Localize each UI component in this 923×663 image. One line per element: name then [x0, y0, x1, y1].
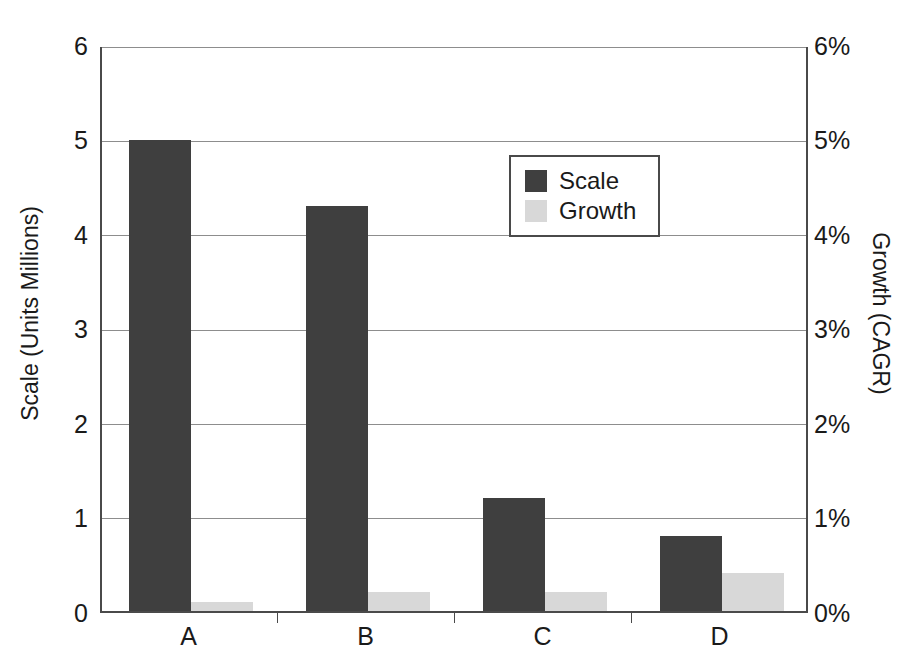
x-axis-label-B: B: [277, 622, 454, 650]
bar-C-scale[interactable]: [483, 498, 545, 611]
y-axis-right-tick-1: 1%: [814, 506, 894, 531]
bar-B-scale[interactable]: [306, 206, 368, 611]
legend-item-growth[interactable]: Growth: [525, 196, 636, 226]
bar-group-A: [102, 47, 279, 611]
bar-D-scale[interactable]: [660, 536, 722, 611]
legend-swatch-growth-icon: [525, 200, 547, 222]
bar-A-growth[interactable]: [191, 602, 253, 611]
x-axis-label-C: C: [454, 622, 631, 650]
bar-A-scale[interactable]: [129, 140, 191, 611]
legend-item-scale[interactable]: Scale: [525, 166, 636, 196]
bar-group-D: [633, 47, 810, 611]
plot-area: [100, 47, 808, 613]
bar-B-growth[interactable]: [368, 592, 430, 611]
y-axis-right-tick-6: 6%: [814, 34, 894, 59]
bar-D-growth[interactable]: [722, 573, 784, 611]
bar-C-growth[interactable]: [545, 592, 607, 611]
legend-label-growth: Growth: [559, 199, 636, 223]
legend-swatch-scale-icon: [525, 170, 547, 192]
y-axis-left-tick-0: 0: [28, 601, 88, 626]
chart-container: 6 5 4 3 2 1 0 6% 5% 4% 3% 2% 1% 0% Scale…: [0, 0, 923, 663]
x-axis-label-D: D: [631, 622, 808, 650]
y-axis-right-title: Growth (CAGR): [867, 149, 894, 479]
x-axis-label-A: A: [100, 622, 277, 650]
y-axis-left-tick-1: 1: [28, 506, 88, 531]
y-axis-left-tick-6: 6: [28, 34, 88, 59]
bar-group-B: [279, 47, 456, 611]
bar-group-C: [456, 47, 633, 611]
legend-label-scale: Scale: [559, 169, 619, 193]
legend: Scale Growth: [509, 155, 660, 237]
y-axis-right-tick-0: 0%: [814, 601, 894, 626]
y-axis-left-title: Scale (Units Millions): [17, 149, 44, 479]
